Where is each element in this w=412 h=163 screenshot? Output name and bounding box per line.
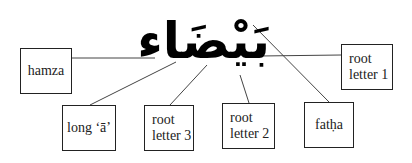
fatha-box: fatḥa	[304, 102, 354, 148]
root-letter-3-label-line2: letter 3	[152, 128, 191, 144]
root-letter-2-label-line2: letter 2	[230, 126, 269, 142]
long-a-box: long ‘ā’	[62, 105, 116, 151]
root-letter-1-connector	[260, 55, 341, 56]
root-letter-1-label-line1: root	[349, 51, 388, 67]
root-letter-3-box: root letter 3	[144, 105, 194, 151]
root-letter-2-label-line1: root	[230, 110, 269, 126]
hamza-label: hamza	[28, 63, 65, 79]
root-letter-1-box: root letter 1	[341, 44, 393, 90]
long-a-label: long ‘ā’	[67, 120, 111, 136]
root-letter-2-box: root letter 2	[222, 103, 275, 149]
root-letter-3-label-line1: root	[152, 112, 191, 128]
root-letter-1-label-line2: letter 1	[349, 67, 388, 83]
hamza-box: hamza	[20, 48, 72, 94]
fatha-label: fatḥa	[315, 117, 343, 133]
arabic-word: بَيْضَاء	[150, 0, 270, 86]
